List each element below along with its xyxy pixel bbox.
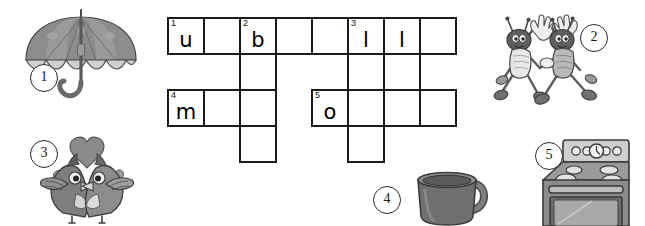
crossword-cell[interactable] <box>419 17 457 55</box>
mug-icon <box>409 168 495 226</box>
crossword-cell[interactable] <box>239 89 277 127</box>
crossword-cell[interactable] <box>419 89 457 127</box>
crossword-cell[interactable] <box>203 17 241 55</box>
crossword-cell[interactable] <box>383 89 421 127</box>
picture-number-badge-4: 4 <box>373 186 401 214</box>
picture-number-badge-1: 1 <box>30 64 58 92</box>
picture-mug: 4 <box>409 168 495 226</box>
crossword-cell[interactable] <box>383 53 421 91</box>
crossword-cell-letter: o <box>313 100 347 124</box>
crossword-cell-number: 3 <box>351 18 356 28</box>
crossword-cell[interactable] <box>347 125 385 163</box>
picture-number-badge-5: 5 <box>535 142 563 170</box>
crossword-cell[interactable]: 5o <box>311 89 349 127</box>
crossword-cell-number: 2 <box>243 18 248 28</box>
picture-number-badge-3: 3 <box>30 140 58 168</box>
beetles-icon <box>494 8 606 108</box>
crossword-cell[interactable] <box>347 89 385 127</box>
picture-lovebirds: 3 <box>28 132 146 224</box>
crossword-cell[interactable]: 4m <box>167 89 205 127</box>
crossword-cell[interactable] <box>239 53 277 91</box>
umbrella-icon <box>22 14 140 106</box>
crossword-cell[interactable]: 1u <box>167 17 205 55</box>
crossword-cell-letter: u <box>169 28 203 52</box>
crossword-cell[interactable] <box>347 53 385 91</box>
crossword-cell[interactable] <box>203 89 241 127</box>
crossword-cell-number: 1 <box>171 18 176 28</box>
crossword-cell-letter: m <box>169 100 203 124</box>
worksheet-canvas: 1 <box>0 0 645 226</box>
picture-stove: 5 <box>534 134 632 226</box>
crossword-cell-letter: b <box>241 28 275 52</box>
picture-umbrella: 1 <box>22 14 140 106</box>
crossword-cell-number: 4 <box>171 90 176 100</box>
crossword-cell-number: 5 <box>315 90 320 100</box>
crossword-cell[interactable]: 2b <box>239 17 277 55</box>
crossword-cell-letter: l <box>349 28 383 52</box>
crossword-cell[interactable]: l <box>383 17 421 55</box>
picture-number-badge-2: 2 <box>580 24 608 52</box>
picture-beetles: 2 <box>494 8 606 108</box>
crossword-cell[interactable]: 3l <box>347 17 385 55</box>
crossword-cell[interactable] <box>275 17 313 55</box>
crossword-cell[interactable] <box>311 17 349 55</box>
crossword-cell-letter: l <box>385 28 419 52</box>
crossword-cell[interactable] <box>239 125 277 163</box>
